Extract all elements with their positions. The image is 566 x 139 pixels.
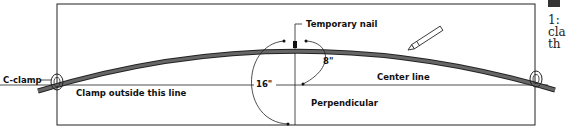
perpendicular-label: Perpendicular — [311, 98, 379, 108]
temporary-nail-label: Temporary nail — [306, 19, 378, 29]
clamp-outside-label: Clamp outside this line — [76, 88, 186, 98]
eight-inch-label: 8" — [323, 56, 333, 66]
side-caption: 1: cla th — [548, 14, 566, 50]
temporary-nail-icon — [293, 41, 297, 48]
caption-marker — [548, 0, 560, 7]
sixteen-inch-label: 16" — [256, 79, 272, 89]
c-clamp-label: C-clamp — [3, 75, 42, 85]
pencil-icon — [407, 26, 443, 52]
center-line-label: Center line — [377, 72, 430, 82]
board-outline — [57, 4, 535, 125]
